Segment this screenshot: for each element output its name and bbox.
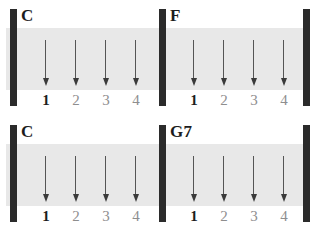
- down-strum-arrow-icon: [135, 40, 137, 86]
- arrow-shaft: [283, 40, 284, 82]
- arrow-shaft: [193, 156, 194, 198]
- measure-3: C1234: [10, 116, 159, 232]
- beat-4[interactable]: 4: [272, 144, 296, 232]
- arrow-shaft: [223, 40, 224, 82]
- arrow-shaft: [45, 156, 46, 198]
- arrow-head: [251, 194, 257, 202]
- beat-2[interactable]: 2: [212, 28, 236, 116]
- beat-2[interactable]: 2: [64, 28, 88, 116]
- arrow-head: [281, 194, 287, 202]
- down-strum-arrow-icon: [105, 156, 107, 202]
- chord-label[interactable]: F: [170, 6, 181, 26]
- chord-label[interactable]: G7: [170, 122, 192, 142]
- down-strum-arrow-icon: [193, 156, 195, 202]
- beat-3[interactable]: 3: [94, 144, 118, 232]
- beat-3[interactable]: 3: [242, 144, 266, 232]
- barline-2: [303, 125, 310, 222]
- arrow-head: [133, 78, 139, 86]
- strumming-chart: C1234F1234C1234G71234: [0, 0, 324, 232]
- measure-4: G71234: [159, 116, 303, 232]
- down-strum-arrow-icon: [283, 156, 285, 202]
- beat-number: 2: [212, 208, 236, 225]
- beat-number: 4: [272, 92, 296, 109]
- barline-2: [303, 9, 310, 106]
- beat-1[interactable]: 1: [182, 28, 206, 116]
- arrow-head: [73, 194, 79, 202]
- arrow-shaft: [253, 156, 254, 198]
- arrow-head: [281, 78, 287, 86]
- beat-1[interactable]: 1: [182, 144, 206, 232]
- arrow-shaft: [135, 156, 136, 198]
- down-strum-arrow-icon: [223, 156, 225, 202]
- chord-label[interactable]: C: [21, 122, 33, 142]
- beat-number: 2: [212, 92, 236, 109]
- arrow-shaft: [75, 40, 76, 82]
- beat-4[interactable]: 4: [124, 144, 148, 232]
- down-strum-arrow-icon: [253, 40, 255, 86]
- beat-2[interactable]: 2: [64, 144, 88, 232]
- arrow-head: [221, 194, 227, 202]
- beat-number: 3: [242, 208, 266, 225]
- arrow-head: [103, 194, 109, 202]
- measure-1: C1234: [10, 0, 159, 116]
- down-strum-arrow-icon: [45, 156, 47, 202]
- beat-number: 4: [124, 92, 148, 109]
- down-strum-arrow-icon: [135, 156, 137, 202]
- arrow-shaft: [135, 40, 136, 82]
- beat-number: 3: [242, 92, 266, 109]
- down-strum-arrow-icon: [105, 40, 107, 86]
- beat-4[interactable]: 4: [272, 28, 296, 116]
- down-strum-arrow-icon: [283, 40, 285, 86]
- down-strum-arrow-icon: [75, 40, 77, 86]
- beat-number: 3: [94, 92, 118, 109]
- beat-number: 2: [64, 92, 88, 109]
- chord-label[interactable]: C: [21, 6, 33, 26]
- down-strum-arrow-icon: [253, 156, 255, 202]
- beat-3[interactable]: 3: [242, 28, 266, 116]
- arrow-shaft: [45, 40, 46, 82]
- arrow-shaft: [223, 156, 224, 198]
- arrow-head: [133, 194, 139, 202]
- arrow-shaft: [283, 156, 284, 198]
- arrow-head: [191, 194, 197, 202]
- arrow-shaft: [105, 156, 106, 198]
- down-strum-arrow-icon: [75, 156, 77, 202]
- beat-4[interactable]: 4: [124, 28, 148, 116]
- beat-2[interactable]: 2: [212, 144, 236, 232]
- beat-number: 2: [64, 208, 88, 225]
- arrow-shaft: [75, 156, 76, 198]
- beat-number: 1: [182, 92, 206, 109]
- beat-number: 4: [124, 208, 148, 225]
- arrow-head: [221, 78, 227, 86]
- beat-number: 1: [34, 208, 58, 225]
- beat-number: 1: [34, 92, 58, 109]
- arrow-shaft: [193, 40, 194, 82]
- arrow-head: [251, 78, 257, 86]
- down-strum-arrow-icon: [45, 40, 47, 86]
- beat-1[interactable]: 1: [34, 144, 58, 232]
- arrow-head: [73, 78, 79, 86]
- beat-number: 1: [182, 208, 206, 225]
- down-strum-arrow-icon: [223, 40, 225, 86]
- measure-2: F1234: [159, 0, 303, 116]
- beat-3[interactable]: 3: [94, 28, 118, 116]
- arrow-head: [43, 194, 49, 202]
- arrow-head: [43, 78, 49, 86]
- system-1: C1234F1234: [0, 0, 324, 116]
- arrow-shaft: [105, 40, 106, 82]
- arrow-head: [103, 78, 109, 86]
- beat-number: 4: [272, 208, 296, 225]
- arrow-shaft: [253, 40, 254, 82]
- system-2: C1234G71234: [0, 116, 324, 232]
- beat-1[interactable]: 1: [34, 28, 58, 116]
- beat-number: 3: [94, 208, 118, 225]
- down-strum-arrow-icon: [193, 40, 195, 86]
- arrow-head: [191, 78, 197, 86]
